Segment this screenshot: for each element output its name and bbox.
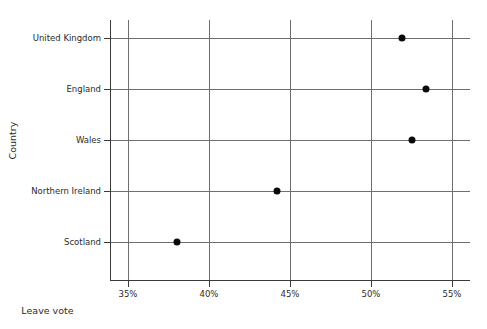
row-baseline [111,242,470,243]
plot-area [111,20,470,280]
x-tick-mark [290,281,291,287]
y-tick-mark [104,242,110,243]
data-point-marker[interactable] [408,137,415,144]
row-baseline [111,191,470,192]
row-baseline [111,140,470,141]
x-tick-mark [371,281,372,287]
y-tick-mark [104,89,110,90]
y-tick-label: England [66,84,101,94]
x-tick-mark [128,281,129,287]
x-tick-label: 40% [200,289,219,299]
x-tick-label: 55% [443,289,462,299]
leave-vote-dot-chart: United KingdomEnglandWalesNorthern Irela… [0,0,487,329]
x-tick-mark [209,281,210,287]
y-tick-label: Wales [76,135,101,145]
y-tick-mark [104,140,110,141]
y-tick-label: United Kingdom [33,33,101,43]
data-point-marker[interactable] [398,35,405,42]
x-axis-title: Leave vote [21,305,73,316]
y-tick-mark [104,38,110,39]
row-baseline [111,38,470,39]
x-axis-title-wrap: Leave vote [0,305,487,316]
y-axis-title: Country [7,111,18,171]
row-baseline [111,89,470,90]
x-gridline [128,20,129,280]
data-point-marker[interactable] [274,188,281,195]
y-tick-label: Northern Ireland [31,186,101,196]
x-tick-label: 50% [362,289,381,299]
x-tick-label: 35% [119,289,138,299]
data-point-marker[interactable] [173,239,180,246]
x-gridline [209,20,210,280]
x-gridline [452,20,453,280]
x-gridline [290,20,291,280]
y-tick-label: Scotland [64,237,101,247]
x-tick-mark [452,281,453,287]
x-gridline [371,20,372,280]
data-point-marker[interactable] [423,86,430,93]
y-tick-mark [104,191,110,192]
x-tick-label: 45% [281,289,300,299]
